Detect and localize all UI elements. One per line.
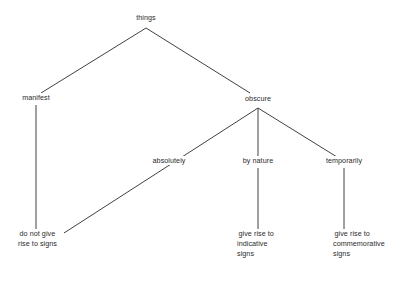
node-label-text: absolutely <box>151 156 187 165</box>
node-label-text: give rise to indicative signs <box>237 229 274 258</box>
node-label-text: obscure <box>244 94 273 103</box>
node-label-text: by nature <box>241 156 274 165</box>
node-temporarily: temporarily <box>324 156 363 166</box>
node-things: things <box>135 13 157 23</box>
node-label-text: manifest <box>21 93 52 102</box>
node-label-text: temporarily <box>324 156 363 165</box>
node-manifest: manifest <box>21 93 52 103</box>
tree-diagram: thingsmanifestobscureabsolutelyby nature… <box>0 0 417 284</box>
edge-obscure-absolutely <box>64 108 258 233</box>
node-label-text: give rise to commemorative signs <box>333 229 385 258</box>
node-commemorative: give rise to commemorative signs <box>333 229 385 259</box>
edge-obscure-temporarily <box>258 108 337 157</box>
node-do-not-give: do not give rise to signs <box>18 229 59 249</box>
node-by-nature: by nature <box>241 156 274 166</box>
node-obscure: obscure <box>244 94 273 104</box>
node-absolutely: absolutely <box>151 156 187 166</box>
edge-things-obscure <box>146 28 250 93</box>
node-label-text: things <box>135 13 157 22</box>
node-label-text: do not give rise to signs <box>18 229 59 248</box>
edge-things-manifest <box>41 28 146 93</box>
node-indicative: give rise to indicative signs <box>237 229 274 259</box>
